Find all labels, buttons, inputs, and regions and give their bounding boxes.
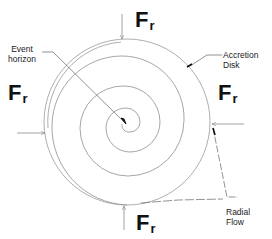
accretion-disk-inner-edge: [48, 42, 121, 128]
radial-flow-label: Radial Flow: [226, 207, 250, 227]
radial-flow-pointer-icon: [213, 128, 215, 135]
radial-flow-label-line2: Flow: [226, 217, 250, 227]
force-label-left: Fr: [8, 82, 28, 110]
event-horizon-label-line1: Event: [2, 44, 42, 54]
force-subscript: r: [22, 91, 27, 106]
event-horizon-label-line2: horizon: [2, 54, 42, 64]
force-label-bottom: Fr: [136, 212, 156, 239]
force-symbol: F: [135, 7, 148, 32]
force-symbol: F: [8, 80, 21, 105]
event-horizon-pointer-icon: [121, 118, 126, 124]
accretion-disk-outer-ring: [44, 39, 210, 205]
accretion-disk-label: Accretion Disk: [223, 50, 258, 70]
inflow-spiral: [52, 56, 184, 205]
force-subscript: r: [150, 221, 155, 236]
event-horizon-label: Event horizon: [2, 44, 42, 64]
radial-flow-leader: [213, 128, 238, 197]
radial-flow-label-line1: Radial: [226, 207, 250, 217]
force-subscript: r: [232, 91, 237, 106]
accretion-disk-label-line1: Accretion: [223, 50, 258, 60]
force-symbol: F: [218, 80, 231, 105]
force-subscript: r: [149, 18, 154, 33]
force-label-right: Fr: [218, 82, 238, 110]
force-symbol: F: [136, 210, 149, 235]
accretion-disk-leader: [190, 55, 222, 66]
accretion-disk-label-line2: Disk: [223, 60, 258, 70]
force-label-top: Fr: [135, 9, 155, 37]
